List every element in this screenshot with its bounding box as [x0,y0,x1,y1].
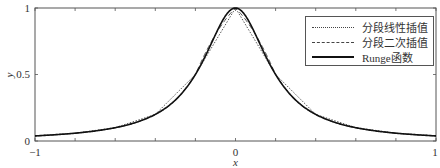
legend-item-linear: 分段线性插值 [312,20,428,34]
legend-item-runge: Runge函数 [312,50,413,64]
dashed-line-swatch-icon [312,42,354,43]
legend-item-quadratic: 分段二次插值 [312,35,428,49]
y-tick-label-half: 0.5 [16,68,30,80]
y-axis-label: y [3,72,15,78]
x-tick-label-min: −1 [29,146,41,158]
solid-line-swatch-icon [312,56,354,58]
legend-box: 分段线性插值 分段二次插值 Runge函数 [305,16,434,66]
legend-label: Runge函数 [362,49,413,65]
y-tick-label-zero: 0 [25,135,31,147]
x-tick-label-max: 1 [432,146,438,158]
legend-label: 分段二次插值 [362,34,428,50]
dotted-line-swatch-icon [312,27,354,28]
legend-label: 分段线性插值 [362,19,428,35]
y-tick-label-one: 1 [25,2,31,14]
x-axis-label: x [232,156,238,168]
